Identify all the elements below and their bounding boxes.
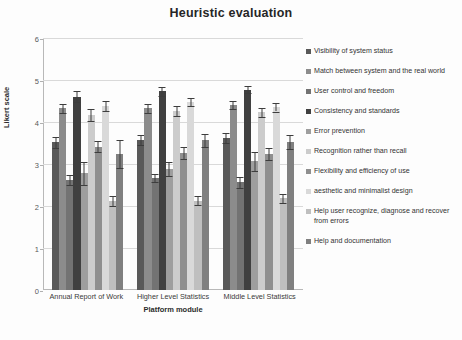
error-bar-cap	[102, 101, 109, 102]
bar[interactable]	[95, 147, 102, 290]
error-bar-cap	[244, 86, 251, 87]
error-bar-cap	[187, 98, 194, 99]
bar[interactable]	[137, 140, 144, 290]
bar[interactable]	[116, 154, 123, 290]
bar[interactable]	[280, 198, 287, 290]
legend-label: Help and documentation	[314, 237, 391, 247]
bar-slot	[144, 38, 151, 290]
error-bar-cap	[266, 148, 273, 149]
legend-item[interactable]: Visibility of system status	[306, 47, 458, 57]
error-bar-cap	[251, 152, 258, 153]
bar[interactable]	[52, 142, 59, 290]
bar-slot	[95, 38, 102, 290]
error-bar-cap	[258, 108, 265, 109]
bar-slot	[287, 38, 294, 290]
bar-groups	[43, 38, 303, 290]
legend-item[interactable]: aesthetic and minimalist design	[306, 187, 458, 197]
bar-slot	[194, 38, 201, 290]
bar[interactable]	[73, 97, 80, 290]
legend-label: Consistency and standards	[314, 107, 400, 117]
legend-item[interactable]: Consistency and standards	[306, 107, 458, 117]
legend-item[interactable]: User control and freedom	[306, 87, 458, 97]
error-bar-cap	[223, 133, 230, 134]
bar[interactable]	[180, 153, 187, 290]
error-bar-cap	[230, 101, 237, 102]
bar[interactable]	[230, 105, 237, 290]
legend-item[interactable]: Error prevention	[306, 127, 458, 137]
bar-slot	[66, 38, 73, 290]
bar[interactable]	[244, 90, 251, 290]
bar-slot	[223, 38, 230, 290]
bar-slot	[173, 38, 180, 290]
legend-swatch-icon	[306, 169, 311, 174]
bar[interactable]	[237, 182, 244, 290]
bar[interactable]	[251, 161, 258, 290]
bar-slot	[88, 38, 95, 290]
error-bar-cap	[152, 174, 159, 175]
legend-swatch-icon	[306, 89, 311, 94]
bar-slot	[280, 38, 287, 290]
legend-label: aesthetic and minimalist design	[314, 187, 413, 197]
error-bar-cap	[59, 113, 66, 114]
bar[interactable]	[273, 107, 280, 290]
error-bar	[155, 174, 156, 182]
bar[interactable]	[223, 138, 230, 290]
error-bar-cap	[173, 116, 180, 117]
error-bar-cap	[202, 147, 209, 148]
bar-slot	[81, 38, 88, 290]
bar[interactable]	[287, 142, 294, 290]
bar[interactable]	[144, 108, 151, 290]
gridline: 0	[43, 290, 303, 291]
bar-slot	[244, 38, 251, 290]
bar[interactable]	[81, 173, 88, 290]
legend-item[interactable]: Help and documentation	[306, 237, 458, 247]
y-axis-tick-label: 1	[35, 245, 39, 254]
bar-slot	[258, 38, 265, 290]
bar[interactable]	[173, 111, 180, 290]
error-bar	[190, 98, 191, 106]
error-bar	[55, 137, 56, 148]
y-axis-tick-label: 4	[35, 119, 39, 128]
legend-swatch-icon	[306, 209, 311, 214]
legend-item[interactable]: Recognition rather than recall	[306, 147, 458, 157]
error-bar-cap	[137, 135, 144, 136]
error-bar-cap	[66, 185, 73, 186]
error-bar-cap	[287, 149, 294, 150]
bar[interactable]	[202, 140, 209, 290]
chart-container: Heuristic evaluation Likert scale 012345…	[0, 0, 462, 340]
error-bar-cap	[81, 185, 88, 186]
bar[interactable]	[265, 154, 272, 290]
legend-item[interactable]: Match between system and the real world	[306, 67, 458, 77]
bar[interactable]	[258, 112, 265, 290]
bar[interactable]	[59, 108, 66, 290]
y-axis-tick-label: 3	[35, 161, 39, 170]
error-bar	[119, 140, 120, 168]
error-bar-cap	[258, 117, 265, 118]
error-bar	[269, 148, 270, 160]
bar-slot	[102, 38, 109, 290]
bar[interactable]	[166, 169, 173, 290]
bar[interactable]	[66, 180, 73, 290]
bar[interactable]	[187, 102, 194, 290]
bar-slot	[230, 38, 237, 290]
bar-slot	[202, 38, 209, 290]
bar[interactable]	[109, 201, 116, 290]
bar[interactable]	[102, 106, 109, 290]
bar[interactable]	[159, 91, 166, 290]
legend-label: User control and freedom	[314, 87, 394, 97]
bar-slot	[251, 38, 258, 290]
error-bar-cap	[166, 162, 173, 163]
legend-item[interactable]: Flexibility and efficiency of use	[306, 167, 458, 177]
bar-slot	[187, 38, 194, 290]
error-bar	[76, 91, 77, 102]
error-bar	[197, 196, 198, 204]
legend-label: Help user recognize, diagnose and recove…	[314, 207, 458, 226]
bar[interactable]	[152, 178, 159, 290]
chart-title: Heuristic evaluation	[0, 6, 462, 20]
bar[interactable]	[194, 201, 201, 290]
legend-item[interactable]: Help user recognize, diagnose and recove…	[306, 207, 458, 226]
error-bar-cap	[202, 134, 209, 135]
legend-label: Error prevention	[314, 127, 365, 137]
bar[interactable]	[88, 115, 95, 290]
error-bar	[290, 135, 291, 149]
